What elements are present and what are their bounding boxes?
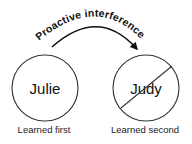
- julie-name: Julie: [30, 80, 61, 97]
- strike-through-line: [121, 66, 172, 108]
- node-judy: Judy Learned second: [111, 55, 179, 135]
- arrow-label-path: Proactive interference: [33, 6, 148, 42]
- proactive-interference-diagram: Proactive interference Julie Learned fir…: [0, 0, 192, 144]
- judy-name: Judy: [130, 80, 162, 97]
- interference-arrow: [52, 27, 136, 48]
- judy-caption: Learned second: [111, 124, 179, 135]
- arrow-label: Proactive interference: [33, 6, 148, 42]
- node-julie: Julie Learned first: [12, 55, 78, 135]
- julie-caption: Learned first: [18, 124, 71, 135]
- diagram-svg: Proactive interference Julie Learned fir…: [0, 0, 192, 144]
